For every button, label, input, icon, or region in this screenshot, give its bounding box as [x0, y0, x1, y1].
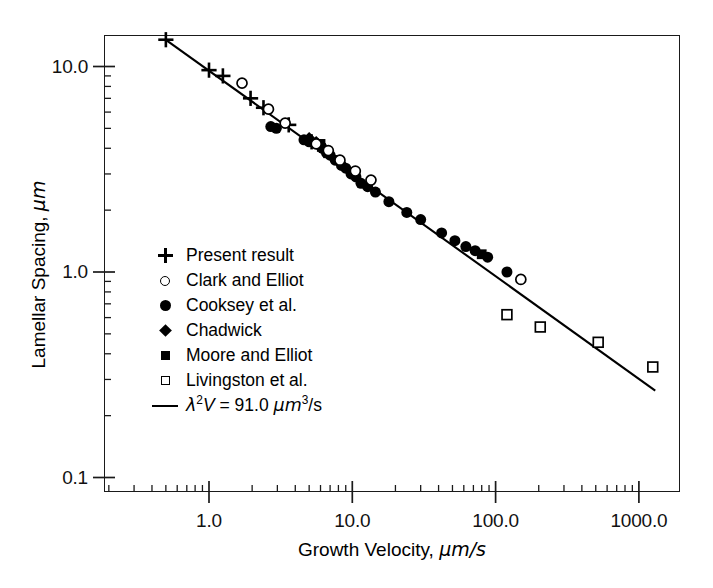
y-axis-title: Lamellar Spacing, µm: [27, 115, 50, 435]
filled-square-icon: [148, 351, 182, 360]
filled-diamond-icon-glyph: [159, 324, 172, 337]
legend-item-moore-and-elliot[interactable]: Moore and Elliot: [148, 343, 322, 368]
y-tick-label: 10.0: [28, 56, 88, 78]
legend-item-chadwick[interactable]: Chadwick: [148, 318, 322, 343]
open-circle-icon-glyph: [160, 276, 170, 286]
filled-circle-icon: [148, 300, 182, 311]
legend-item-fit-line[interactable]: λ2V = 91.0 µm3/s: [148, 393, 322, 418]
legend-item-label: Cooksey et al.: [182, 295, 297, 316]
legend-item-label: Present result: [182, 245, 294, 266]
open-circle-icon: [148, 276, 182, 286]
legend-item-label: Chadwick: [182, 320, 262, 341]
x-tick-label: 10.0: [334, 510, 370, 532]
legend-item-label: Clark and Elliot: [182, 270, 304, 291]
legend-item-label: Moore and Elliot: [182, 345, 312, 366]
y-axis-title-unit: µm: [27, 181, 49, 212]
chart-figure: 1.010.0100.01000.0 10.01.00.1 Growth Vel…: [0, 0, 713, 588]
open-square-icon-glyph: [161, 376, 170, 385]
legend-item-label: Livingston et al.: [182, 370, 308, 391]
y-tick-label: 0.1: [28, 467, 88, 489]
line-sample-icon: [148, 405, 182, 407]
legend-fit-equation: λ2V = 91.0 µm3/s: [182, 395, 322, 416]
legend-item-present-result[interactable]: Present result: [148, 243, 322, 268]
x-tick-label: 1000.0: [610, 510, 667, 532]
open-square-icon: [148, 376, 182, 385]
chart-legend: Present resultClark and ElliotCooksey et…: [148, 243, 322, 418]
legend-item-clark-and-elliot[interactable]: Clark and Elliot: [148, 268, 322, 293]
x-tick-label: 1.0: [196, 510, 222, 532]
filled-diamond-icon: [148, 326, 182, 335]
filled-square-icon-glyph: [161, 351, 170, 360]
line-sample-glyph: [152, 405, 178, 407]
plus-icon: [148, 248, 182, 263]
filled-circle-icon-glyph: [160, 300, 171, 311]
x-axis-title-unit: µm/s: [439, 538, 486, 560]
legend-item-livingston-et-al[interactable]: Livingston et al.: [148, 368, 322, 393]
legend-item-cooksey-et-al[interactable]: Cooksey et al.: [148, 293, 322, 318]
y-axis-title-text: Lamellar Spacing,: [28, 211, 49, 368]
x-tick-label: 100.0: [472, 510, 519, 532]
x-axis-title: Growth Velocity, µm/s: [104, 538, 680, 561]
plus-icon-glyph: [158, 248, 173, 263]
x-axis-title-text: Growth Velocity,: [298, 539, 439, 560]
